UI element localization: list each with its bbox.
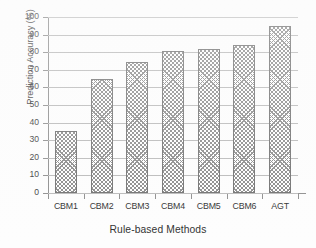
plot-area (48, 17, 298, 193)
x-axis-title: Rule-based Methods (0, 224, 316, 235)
y-axis-tick-label: 50 (9, 100, 39, 109)
y-axis-tick (43, 17, 48, 18)
x-axis-tick (155, 194, 156, 199)
x-axis-tick (227, 194, 228, 199)
x-axis-tick-label: AGT (262, 201, 298, 211)
x-axis-tick (119, 194, 120, 199)
bar-cbm6 (233, 45, 255, 193)
bar-cbm1 (55, 131, 77, 193)
gridline (48, 17, 298, 18)
bar-agt (269, 26, 291, 193)
y-axis-tick-label: 10 (9, 170, 39, 179)
y-axis-tick (43, 105, 48, 106)
y-axis-tick-label: 60 (9, 82, 39, 91)
y-axis-tick-label: 30 (9, 135, 39, 144)
x-axis-tick-label: CBM3 (119, 201, 155, 211)
y-axis-tick-label: 0 (9, 188, 39, 197)
y-axis-tick-label: 70 (9, 65, 39, 74)
gridline (48, 35, 298, 36)
bar-cbm3 (126, 62, 148, 193)
bar-cbm4 (162, 51, 184, 193)
gridline (48, 193, 298, 194)
x-axis-tick (298, 194, 299, 199)
y-axis-tick-label: 40 (9, 118, 39, 127)
y-axis-tick-label: 20 (9, 153, 39, 162)
bar-chart-figure: Prediction Accuracy (%) 0102030405060708… (0, 0, 316, 248)
x-axis-tick (48, 194, 49, 199)
y-axis-tick (43, 70, 48, 71)
x-axis-tick (84, 194, 85, 199)
y-axis-tick (43, 158, 48, 159)
x-axis-tick-label: CBM2 (84, 201, 120, 211)
x-axis-tick-label: CBM1 (48, 201, 84, 211)
x-axis-tick-label: CBM6 (227, 201, 263, 211)
y-axis-tick-label: 90 (9, 30, 39, 39)
y-axis-tick (43, 123, 48, 124)
x-axis-tick (191, 194, 192, 199)
y-axis-tick (43, 175, 48, 176)
bar-cbm2 (91, 79, 113, 193)
y-axis-tick-label: 100 (9, 12, 39, 21)
y-axis-tick (43, 35, 48, 36)
y-axis-tick (43, 140, 48, 141)
x-axis-tick (262, 194, 263, 199)
x-axis-tick-label: CBM5 (191, 201, 227, 211)
y-axis-tick (43, 52, 48, 53)
x-axis-tick-label: CBM4 (155, 201, 191, 211)
y-axis-tick-label: 80 (9, 47, 39, 56)
bar-cbm5 (198, 49, 220, 193)
y-axis-tick (43, 87, 48, 88)
